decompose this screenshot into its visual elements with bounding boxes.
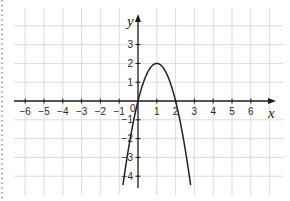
x-tick-label: −5 xyxy=(38,106,50,117)
axes: x y 0 xyxy=(14,13,276,188)
y-tick-label: 2 xyxy=(127,58,133,69)
y-tick-label: 1 xyxy=(127,77,133,88)
x-tick-label: −2 xyxy=(95,106,107,117)
x-tick-label: −4 xyxy=(57,106,69,117)
x-tick-label: 3 xyxy=(192,106,198,117)
y-tick-label: −3 xyxy=(122,152,134,163)
ticks: −6−5−4−3−2−1123456321−1−2−3−4 xyxy=(19,39,254,182)
parabola-graph: x y 0 −6−5−4−3−2−1123456321−1−2−3−4 xyxy=(0,0,290,201)
x-axis-label: x xyxy=(267,105,275,121)
x-tick-label: −3 xyxy=(76,106,88,117)
y-axis-arrow-icon xyxy=(135,14,141,22)
x-tick-label: 1 xyxy=(154,106,160,117)
origin-label: 0 xyxy=(130,103,136,114)
x-axis-arrow-icon xyxy=(268,98,276,104)
x-tick-label: 5 xyxy=(229,106,235,117)
x-tick-label: 2 xyxy=(173,106,179,117)
x-tick-label: 4 xyxy=(210,106,216,117)
x-tick-label: −6 xyxy=(19,106,31,117)
y-tick-label: −4 xyxy=(122,171,134,182)
y-tick-label: 3 xyxy=(127,39,133,50)
y-tick-label: −2 xyxy=(122,133,134,144)
y-axis-label: y xyxy=(125,13,134,29)
y-tick-label: −1 xyxy=(122,114,134,125)
x-tick-label: 6 xyxy=(248,106,254,117)
